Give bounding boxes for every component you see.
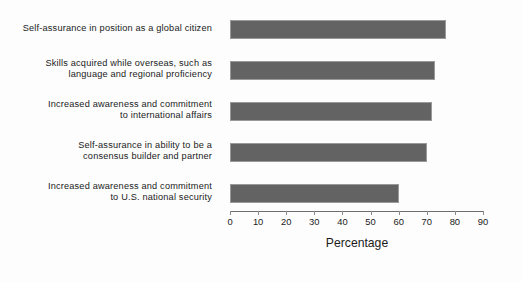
category-label: Self-assurance in ability to be aconsens… (0, 140, 212, 163)
category-label-line: language and regional proficiency (0, 69, 212, 81)
tick-mark (286, 211, 287, 215)
tick-mark (399, 211, 400, 215)
tick-label: 30 (309, 216, 319, 227)
x-axis-tick-labels: 0102030405060708090 (230, 216, 484, 230)
bar (230, 143, 427, 162)
tick-label: 60 (393, 216, 403, 227)
tick-label: 70 (422, 216, 432, 227)
category-axis-labels: Self-assurance in position as a global c… (0, 0, 222, 212)
bar (230, 102, 432, 121)
bar-row (230, 184, 483, 203)
bar-row (230, 102, 483, 121)
tick-mark (230, 211, 231, 215)
category-label: Self-assurance in position as a global c… (0, 23, 212, 35)
category-label-line: Increased awareness and commitment (0, 99, 212, 111)
category-label-line: Self-assurance in ability to be a (0, 140, 212, 152)
tick-label: 80 (450, 216, 460, 227)
tick-label: 0 (227, 216, 232, 227)
tick-mark (455, 211, 456, 215)
bar (230, 20, 446, 39)
bar-row (230, 20, 483, 39)
tick-mark (314, 211, 315, 215)
tick-label: 90 (478, 216, 488, 227)
tick-mark (371, 211, 372, 215)
tick-label: 20 (281, 216, 291, 227)
category-label: Increased awareness and commitmentto int… (0, 99, 212, 122)
category-label-line: consensus builder and partner (0, 151, 212, 163)
bar (230, 61, 435, 80)
category-label-line: Skills acquired while overseas, such as (0, 58, 212, 70)
category-label: Skills acquired while overseas, such asl… (0, 58, 212, 81)
category-label-line: to international affairs (0, 110, 212, 122)
tick-mark (483, 211, 484, 215)
category-label: Increased awareness and commitmentto U.S… (0, 181, 212, 204)
category-label-line: to U.S. national security (0, 192, 212, 204)
category-label-line: Increased awareness and commitment (0, 181, 212, 193)
plot-area (230, 10, 483, 212)
bar-row (230, 61, 483, 80)
tick-mark (427, 211, 428, 215)
x-axis-title: Percentage (230, 236, 484, 250)
category-label-line: Self-assurance in position as a global c… (0, 23, 212, 35)
tick-mark (258, 211, 259, 215)
tick-mark (342, 211, 343, 215)
tick-label: 40 (337, 216, 347, 227)
bar-chart: Self-assurance in position as a global c… (0, 0, 522, 282)
tick-label: 10 (253, 216, 263, 227)
tick-label: 50 (365, 216, 375, 227)
bar (230, 184, 399, 203)
bar-row (230, 143, 483, 162)
